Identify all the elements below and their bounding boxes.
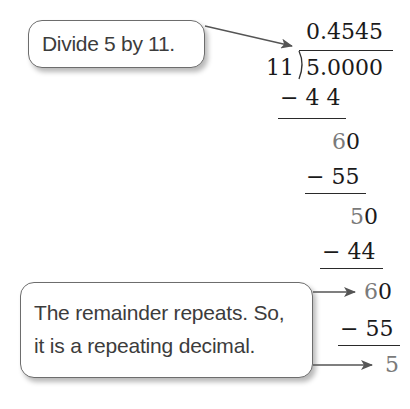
subtract-step-2: − 55 bbox=[306, 165, 359, 189]
brought-down-digit: 0 bbox=[364, 204, 378, 229]
remainder-row-3: 60 bbox=[364, 280, 392, 304]
subtract-step-4: − 55 bbox=[340, 317, 393, 341]
subtract-step-1: − 4 4 bbox=[280, 86, 340, 110]
brought-down-digit: 0 bbox=[346, 129, 360, 154]
subtract-rule-1 bbox=[278, 118, 346, 119]
remainder-digit: 6 bbox=[364, 279, 378, 304]
divisor: 11 bbox=[266, 56, 294, 80]
remainder-row-1: 60 bbox=[332, 130, 360, 154]
arrow-to-division bbox=[205, 26, 292, 46]
final-remainder: 5 bbox=[385, 353, 399, 377]
subtract-rule-4 bbox=[338, 345, 400, 346]
remainder-row-2: 50 bbox=[350, 205, 378, 229]
remainder-digit: 6 bbox=[332, 129, 346, 154]
subtract-rule-3 bbox=[320, 268, 383, 269]
remainder-digit: 5 bbox=[350, 204, 364, 229]
brought-down-digit: 0 bbox=[378, 279, 392, 304]
subtract-rule-2 bbox=[305, 193, 366, 194]
subtract-step-3: − 44 bbox=[322, 240, 375, 264]
division-bracket-icon bbox=[299, 51, 302, 79]
quotient: 0.4545 bbox=[306, 20, 383, 44]
division-bar bbox=[299, 50, 393, 51]
dividend: 5.0000 bbox=[306, 56, 383, 80]
